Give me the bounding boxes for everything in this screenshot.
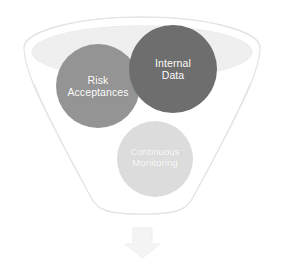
bubble-internal-data[interactable] (129, 25, 217, 113)
bubble-risk-acceptances[interactable] (56, 44, 140, 128)
funnel-graphic (0, 0, 284, 264)
arrow-down-icon (125, 228, 160, 258)
bubble-continuous-monitoring[interactable] (117, 121, 193, 197)
funnel-diagram: Risk Acceptances Internal Data Continuou… (0, 0, 284, 264)
output-arrow (125, 228, 160, 258)
